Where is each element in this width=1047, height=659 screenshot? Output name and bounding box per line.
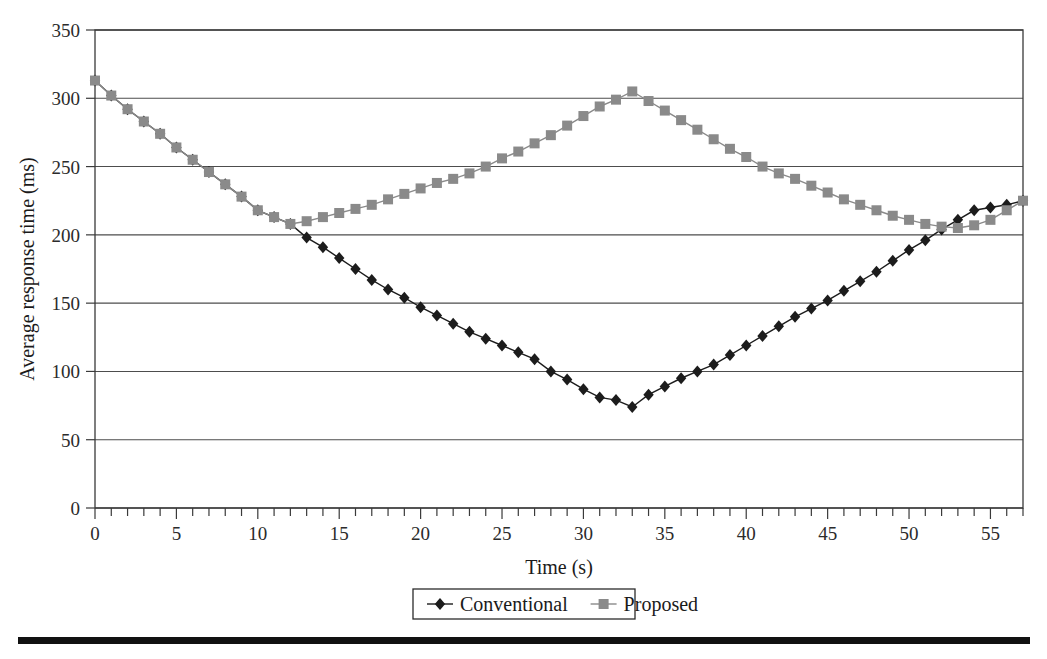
series-marker-proposed-56 <box>1002 205 1012 215</box>
series-marker-proposed-44 <box>806 181 816 191</box>
chart-figure: 0501001502002503003500510152025303540455… <box>0 0 1047 659</box>
y-tick-label-300: 300 <box>52 88 81 109</box>
series-marker-proposed-28 <box>546 130 556 140</box>
y-tick-label-250: 250 <box>52 157 81 178</box>
series-marker-conventional-30 <box>578 383 588 395</box>
series-marker-conventional-42 <box>774 320 784 332</box>
x-tick-label-30: 30 <box>574 523 593 544</box>
series-marker-proposed-50 <box>904 215 914 225</box>
series-marker-conventional-41 <box>757 330 767 342</box>
series-marker-proposed-43 <box>790 174 800 184</box>
series-marker-conventional-18 <box>383 283 393 295</box>
series-marker-proposed-31 <box>595 101 605 111</box>
series-marker-conventional-49 <box>888 255 898 267</box>
series-marker-proposed-51 <box>920 219 930 229</box>
series-marker-proposed-32 <box>611 95 621 105</box>
series-marker-proposed-6 <box>188 155 198 165</box>
x-tick-label-40: 40 <box>737 523 756 544</box>
series-marker-conventional-15 <box>334 252 344 264</box>
series-marker-proposed-18 <box>383 194 393 204</box>
x-tick-label-50: 50 <box>900 523 919 544</box>
y-tick-label-50: 50 <box>61 430 80 451</box>
series-marker-proposed-8 <box>220 179 230 189</box>
series-marker-conventional-19 <box>399 292 409 304</box>
series-marker-proposed-3 <box>139 117 149 127</box>
series-marker-proposed-40 <box>741 152 751 162</box>
plot-frame <box>95 30 1023 508</box>
series-marker-conventional-21 <box>432 309 442 321</box>
x-tick-label-55: 55 <box>981 523 1000 544</box>
series-marker-proposed-13 <box>302 216 312 226</box>
legend-label-1: Proposed <box>624 593 698 616</box>
series-marker-conventional-35 <box>660 380 670 392</box>
series-marker-conventional-32 <box>611 394 621 406</box>
series-marker-proposed-46 <box>839 194 849 204</box>
series-marker-proposed-15 <box>334 208 344 218</box>
series-marker-proposed-2 <box>123 104 133 114</box>
series-marker-proposed-30 <box>578 111 588 121</box>
legend-label-0: Conventional <box>460 593 568 615</box>
series-marker-proposed-39 <box>725 144 735 154</box>
series-marker-proposed-1 <box>106 91 116 101</box>
series-marker-proposed-0 <box>90 76 100 86</box>
series-marker-conventional-33 <box>627 401 637 413</box>
series-marker-proposed-35 <box>660 106 670 116</box>
y-tick-label-150: 150 <box>52 293 81 314</box>
series-marker-conventional-36 <box>676 372 686 384</box>
series-marker-conventional-45 <box>822 294 832 306</box>
series-marker-proposed-53 <box>953 223 963 233</box>
series-marker-proposed-27 <box>530 138 540 148</box>
x-tick-label-35: 35 <box>655 523 674 544</box>
y-tick-label-100: 100 <box>52 361 81 382</box>
legend-marker-square-icon <box>599 599 609 609</box>
series-marker-conventional-40 <box>741 339 751 351</box>
series-marker-proposed-14 <box>318 212 328 222</box>
x-axis-title: Time (s) <box>525 556 593 579</box>
series-marker-proposed-52 <box>937 222 947 232</box>
series-marker-conventional-24 <box>481 333 491 345</box>
x-tick-label-5: 5 <box>172 523 182 544</box>
series-marker-conventional-27 <box>529 353 539 365</box>
series-marker-proposed-22 <box>448 174 458 184</box>
series-marker-proposed-37 <box>692 125 702 135</box>
x-tick-label-45: 45 <box>818 523 837 544</box>
series-marker-conventional-50 <box>904 244 914 256</box>
series-marker-conventional-26 <box>513 346 523 358</box>
series-line-conventional <box>95 81 1023 407</box>
series-marker-conventional-46 <box>839 285 849 297</box>
series-marker-proposed-25 <box>497 153 507 163</box>
series-marker-conventional-48 <box>871 266 881 278</box>
x-tick-label-10: 10 <box>248 523 267 544</box>
series-marker-proposed-5 <box>171 142 181 152</box>
series-marker-proposed-16 <box>350 204 360 214</box>
series-marker-proposed-33 <box>627 86 637 96</box>
series-marker-conventional-14 <box>318 241 328 253</box>
y-tick-label-0: 0 <box>71 498 81 519</box>
response-time-line-chart: 0501001502002503003500510152025303540455… <box>0 0 1047 659</box>
series-marker-conventional-13 <box>301 232 311 244</box>
series-marker-proposed-20 <box>416 183 426 193</box>
x-tick-label-25: 25 <box>493 523 512 544</box>
bottom-rule <box>18 637 1030 644</box>
series-marker-proposed-42 <box>774 168 784 178</box>
series-marker-conventional-22 <box>448 318 458 330</box>
series-marker-proposed-24 <box>481 162 491 172</box>
series-marker-conventional-38 <box>708 359 718 371</box>
series-marker-conventional-47 <box>855 275 865 287</box>
series-marker-proposed-55 <box>985 215 995 225</box>
series-marker-conventional-23 <box>464 326 474 338</box>
series-marker-conventional-25 <box>497 339 507 351</box>
x-tick-label-0: 0 <box>90 523 100 544</box>
series-marker-conventional-54 <box>969 204 979 216</box>
series-marker-conventional-16 <box>350 263 360 275</box>
series-marker-conventional-34 <box>643 389 653 401</box>
series-marker-conventional-55 <box>985 202 995 214</box>
series-marker-proposed-36 <box>676 115 686 125</box>
x-tick-label-15: 15 <box>330 523 349 544</box>
series-marker-proposed-23 <box>464 168 474 178</box>
series-marker-conventional-43 <box>790 311 800 323</box>
series-marker-proposed-11 <box>269 212 279 222</box>
series-marker-proposed-12 <box>285 219 295 229</box>
series-marker-proposed-47 <box>855 200 865 210</box>
y-tick-label-200: 200 <box>52 225 81 246</box>
